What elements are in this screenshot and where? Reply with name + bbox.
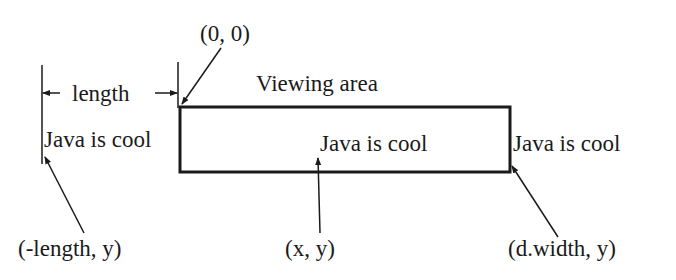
coord-center-label: (x, y) [285,237,335,260]
origin-arrow [182,48,221,104]
coord-right-label: (d.width, y) [508,237,616,260]
right-coord-arrow [512,166,558,237]
viewing-area-label: Viewing area [256,72,378,95]
center-coord-arrow [318,158,320,233]
left-coord-arrow [45,157,84,233]
origin-label: (0, 0) [200,22,250,45]
coord-left-label: (-length, y) [18,237,121,260]
text-left: Java is cool [44,128,151,151]
text-center: Java is cool [320,132,427,155]
text-right: Java is cool [513,132,620,155]
length-label: length [72,82,130,105]
